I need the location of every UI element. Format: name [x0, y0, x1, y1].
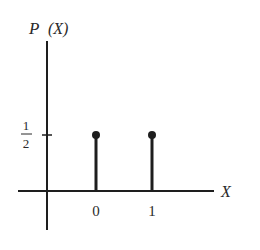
y-tick-denominator: 2	[23, 136, 30, 151]
x-axis-label: X	[220, 183, 232, 200]
x-tick-label-1: 1	[148, 203, 156, 219]
stem-marker-x1	[148, 131, 156, 139]
y-axis-label-x: (X)	[48, 20, 68, 38]
x-tick-label-0: 0	[92, 203, 100, 219]
y-axis-label-p: P	[28, 19, 39, 38]
probability-mass-chart: P (X) 1 2 0 1 X	[0, 0, 260, 250]
y-tick-numerator: 1	[23, 118, 30, 133]
stem-marker-x0	[92, 131, 100, 139]
